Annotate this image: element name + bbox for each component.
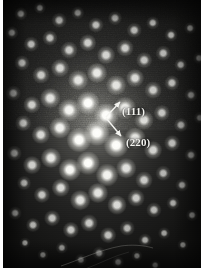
diffraction-figure: (111) (220): [0, 0, 208, 277]
margin-bottom: [0, 268, 208, 277]
margin-left: [0, 0, 3, 277]
label-reflection-111: (111): [122, 105, 145, 117]
label-reflection-220: (220): [126, 136, 150, 148]
scanline-texture: [3, 0, 201, 268]
diffraction-plate: (111) (220): [3, 0, 201, 268]
margin-right: [201, 0, 208, 277]
